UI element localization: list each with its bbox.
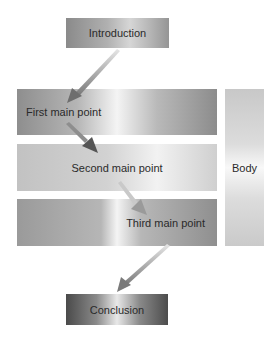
flow-arrows [0,0,276,343]
arrow-second-to-third [118,181,147,215]
arrow-intro-to-first [67,49,120,103]
arrow-first-to-second [66,122,98,153]
arrow-third-to-conclusion [117,244,170,292]
